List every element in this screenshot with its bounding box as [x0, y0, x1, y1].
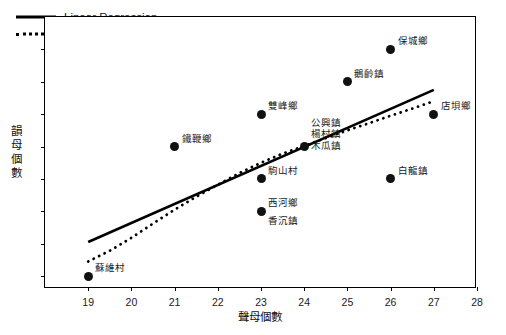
data-point[interactable]: [386, 174, 395, 183]
x-tick-label: 26: [385, 296, 397, 308]
x-tick-label: 28: [471, 296, 483, 308]
y-tick-mark: [41, 244, 45, 245]
x-tick-label: 20: [126, 296, 138, 308]
point-label-line: 木瓜鎮: [311, 140, 341, 152]
y-axis-title-char: 個: [8, 152, 24, 166]
x-tick-label: 22: [212, 296, 224, 308]
point-label: 蘇維村: [95, 262, 125, 274]
data-point[interactable]: [257, 207, 266, 216]
point-label-line: 公興鎮: [311, 117, 341, 129]
scatter-chart: Linear Regression Polynomial Regression …: [0, 0, 506, 335]
x-tick-label: 19: [82, 296, 94, 308]
point-label-line: 楊村鎮: [311, 128, 341, 140]
point-label: 店垻鄉: [441, 100, 471, 112]
data-point[interactable]: [343, 77, 352, 86]
x-tick-label: 21: [169, 296, 181, 308]
y-tick-mark: [41, 114, 45, 115]
x-tick-mark: [175, 287, 176, 291]
data-point[interactable]: [257, 110, 266, 119]
y-axis-title: 韻母個數: [8, 124, 24, 180]
x-tick-mark: [434, 287, 435, 291]
y-tick-mark: [41, 276, 45, 277]
data-point[interactable]: [257, 174, 266, 183]
point-label: 駒山村: [268, 165, 298, 177]
plot-inner: 蘇維村鐵鞭鄉雙峰鄉駒山村西河鄉香沉鎮公興鎮楊村鎮木瓜鎮鵝齡鎮保城鄉白龍鎮店垻鄉 …: [45, 17, 475, 287]
y-tick-mark: [41, 49, 45, 50]
x-tick-mark: [391, 287, 392, 291]
x-tick-label: 25: [342, 296, 354, 308]
x-tick-mark: [304, 287, 305, 291]
plot-area: 蘇維村鐵鞭鄉雙峰鄉駒山村西河鄉香沉鎮公興鎮楊村鎮木瓜鎮鵝齡鎮保城鄉白龍鎮店垻鄉 …: [44, 16, 476, 288]
point-label: 保城鄉: [398, 35, 428, 47]
data-point[interactable]: [386, 45, 395, 54]
x-tick-mark: [347, 287, 348, 291]
y-tick-mark: [41, 211, 45, 212]
x-axis-title: 聲母個數: [44, 308, 476, 324]
x-tick-mark: [477, 287, 478, 291]
point-label: 白龍鎮: [398, 165, 428, 177]
x-tick-mark: [218, 287, 219, 291]
x-tick-label: 23: [255, 296, 267, 308]
point-label: 西河鄉: [268, 197, 298, 209]
y-tick-mark: [41, 82, 45, 83]
data-point[interactable]: [84, 272, 93, 281]
point-label: 鐵鞭鄉: [182, 133, 212, 145]
data-point[interactable]: [300, 142, 309, 151]
x-tick-mark: [88, 287, 89, 291]
x-tick-mark: [261, 287, 262, 291]
y-tick-mark: [41, 17, 45, 18]
y-tick-mark: [41, 147, 45, 148]
y-axis-title-char: 母: [8, 138, 24, 152]
y-tick-mark: [41, 179, 45, 180]
y-axis-title-char: 數: [8, 166, 24, 180]
point-label: 香沉鎮: [268, 215, 298, 227]
y-axis-title-char: 韻: [8, 124, 24, 138]
point-label: 雙峰鄉: [268, 100, 298, 112]
x-tick-label: 27: [428, 296, 440, 308]
data-point[interactable]: [429, 110, 438, 119]
point-label: 鵝齡鎮: [354, 68, 384, 80]
x-tick-label: 24: [298, 296, 310, 308]
x-tick-mark: [131, 287, 132, 291]
point-label: 公興鎮楊村鎮木瓜鎮: [311, 117, 341, 152]
